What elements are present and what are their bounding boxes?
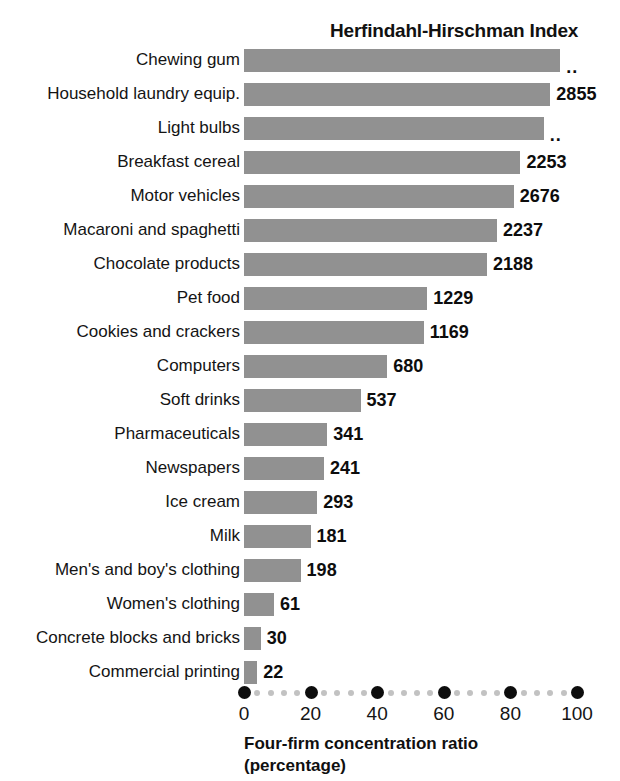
bar [244,49,560,72]
bar-value-label: 2855 [550,83,596,106]
x-axis-dots [244,686,577,702]
bar-row: Milk181 [0,524,620,558]
axis-major-dot [571,686,584,699]
bar [244,355,387,378]
bar [244,593,274,616]
bar-row: Pet food1229 [0,286,620,320]
bar [244,389,361,412]
bar [244,287,427,310]
x-axis-title: Four-firm concentration ratio (percentag… [244,733,604,777]
axis-minor-dot [334,690,340,696]
bar-row: Newspapers241 [0,456,620,490]
bar-row: Motor vehicles2676 [0,184,620,218]
bar-value-label: 293 [317,491,353,514]
bar-category-label: Commercial printing [0,660,240,684]
bar-row: Macaroni and spaghetti2237 [0,218,620,252]
bar-value-label: 680 [387,355,423,378]
x-tick-label: 0 [214,703,274,725]
bar-track: 61 [244,593,584,616]
bar [244,253,487,276]
axis-minor-dot [348,690,354,696]
bar-track: 2237 [244,219,584,242]
x-tick-label: 60 [414,703,474,725]
bar-value-label: 198 [301,559,337,582]
axis-minor-dot [534,690,540,696]
bar-row: Pharmaceuticals341 [0,422,620,456]
bar-track: 2253 [244,151,584,174]
bar-track: 2676 [244,185,584,208]
bar-value-label: 30 [261,627,287,650]
bar-category-label: Household laundry equip. [0,82,240,106]
axis-minor-dot [321,690,327,696]
axis-minor-dot [561,690,567,696]
bar-category-label: Cookies and crackers [0,320,240,344]
bar-row: Women's clothing61 [0,592,620,626]
bar-category-label: Pet food [0,286,240,310]
bar-row: Men's and boy's clothing198 [0,558,620,592]
bar-track: 2855 [244,83,584,106]
bar [244,457,324,480]
bar [244,559,301,582]
bar [244,627,261,650]
axis-minor-dot [467,690,473,696]
x-axis-title-line2: (percentage) [244,755,604,777]
bar-track: 537 [244,389,584,412]
bar-category-label: Men's and boy's clothing [0,558,240,582]
bar-track: .. [244,49,584,72]
bar-track: .. [244,117,584,140]
bar-row: Concrete blocks and bricks30 [0,626,620,660]
bar-category-label: Chewing gum [0,48,240,72]
axis-minor-dot [294,690,300,696]
bar-track: 241 [244,457,584,480]
x-tick-label: 80 [480,703,540,725]
bar-track: 293 [244,491,584,514]
axis-minor-dot [361,690,367,696]
axis-minor-dot [414,690,420,696]
axis-minor-dot [521,690,527,696]
bar-row: Household laundry equip.2855 [0,82,620,116]
bar-row: Ice cream293 [0,490,620,524]
x-tick-label: 20 [281,703,341,725]
axis-minor-dot [494,690,500,696]
bar [244,151,520,174]
bar-category-label: Motor vehicles [0,184,240,208]
bar-row: Soft drinks537 [0,388,620,422]
bar-track: 341 [244,423,584,446]
bar-category-label: Newspapers [0,456,240,480]
bar-value-label: 1229 [427,287,473,310]
bar-value-label: 2237 [497,219,543,242]
bar-value-label: 2253 [520,151,566,174]
bar-track: 1229 [244,287,584,310]
bar-track: 1169 [244,321,584,344]
bar [244,219,497,242]
axis-major-dot [371,686,384,699]
bar-value-label: .. [560,49,578,72]
bar-category-label: Breakfast cereal [0,150,240,174]
bar-value-label: 61 [274,593,300,616]
axis-minor-dot [388,690,394,696]
axis-minor-dot [481,690,487,696]
bar-rows: Chewing gum..Household laundry equip.285… [0,48,620,694]
bar [244,525,311,548]
x-tick-label: 40 [347,703,407,725]
bar-track: 22 [244,661,584,684]
bar-row: Cookies and crackers1169 [0,320,620,354]
bar-row: Chocolate products2188 [0,252,620,286]
axis-minor-dot [254,690,260,696]
bar-chart: Herfindahl-Hirschman Index Chewing gum..… [0,0,620,781]
bar-track: 2188 [244,253,584,276]
axis-minor-dot [454,690,460,696]
bar-value-label: 537 [361,389,397,412]
bar-category-label: Macaroni and spaghetti [0,218,240,242]
bar-category-label: Pharmaceuticals [0,422,240,446]
axis-minor-dot [427,690,433,696]
x-axis-title-line1: Four-firm concentration ratio [244,734,478,753]
bar-category-label: Soft drinks [0,388,240,412]
axis-major-dot [504,686,517,699]
bar-value-label: 22 [257,661,283,684]
bar [244,661,257,684]
bar-track: 680 [244,355,584,378]
bar [244,83,550,106]
x-tick-label: 100 [547,703,607,725]
bar-row: Computers680 [0,354,620,388]
